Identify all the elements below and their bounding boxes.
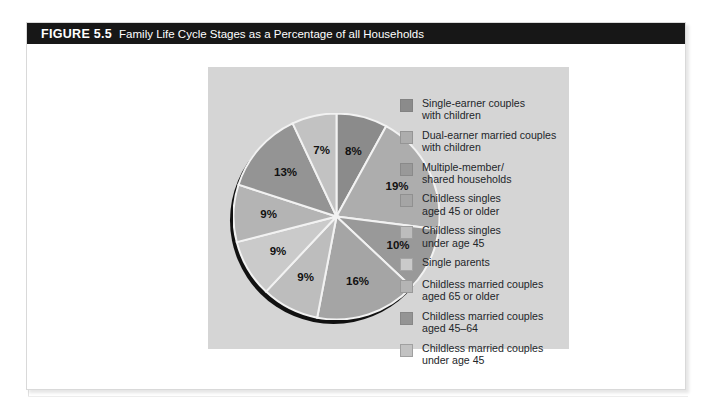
legend-label: Childless singles aged 45 or older (422, 192, 501, 217)
legend-swatch (400, 312, 413, 325)
chart-legend: Single-earner couples with childrenDual-… (400, 97, 576, 374)
legend-label: Multiple-member/ shared households (422, 161, 512, 186)
figure-caption: Family Life Cycle Stages as a Percentage… (119, 28, 424, 40)
legend-swatch (400, 258, 413, 271)
legend-swatch (400, 99, 413, 112)
legend-label: Childless singles under age 45 (422, 224, 501, 249)
legend-item[interactable]: Childless married couples aged 45–64 (400, 310, 576, 335)
chart-panel: 8%19%10%16%9%9%9%13%7% Single-earner cou… (208, 67, 569, 349)
pie-slice-label: 9% (260, 208, 277, 220)
pie-slice-label: 8% (345, 145, 362, 157)
legend-label: Single-earner couples with children (422, 97, 525, 122)
legend-item[interactable]: Dual-earner married couples with childre… (400, 129, 576, 154)
legend-label: Dual-earner married couples with childre… (422, 129, 556, 154)
pie-slice-label: 13% (274, 166, 297, 178)
legend-swatch (400, 131, 413, 144)
legend-label: Childless married couples aged 65 or old… (422, 278, 543, 303)
legend-swatch (400, 226, 413, 239)
figure-title-bar: FIGURE 5.5 Family Life Cycle Stages as a… (27, 23, 685, 44)
legend-label: Childless married couples aged 45–64 (422, 310, 543, 335)
page-rule-bottom (28, 396, 688, 397)
legend-item[interactable]: Single parents (400, 256, 576, 271)
figure-container: FIGURE 5.5 Family Life Cycle Stages as a… (26, 22, 686, 390)
legend-item[interactable]: Single-earner couples with children (400, 97, 576, 122)
legend-label: Childless married couples under age 45 (422, 342, 543, 367)
legend-swatch (400, 194, 413, 207)
legend-swatch (400, 344, 413, 357)
pie-slice-label: 16% (346, 275, 369, 287)
legend-item[interactable]: Childless singles aged 45 or older (400, 192, 576, 217)
legend-label: Single parents (422, 256, 490, 268)
legend-swatch (400, 163, 413, 176)
legend-swatch (400, 280, 413, 293)
legend-item[interactable]: Childless married couples aged 65 or old… (400, 278, 576, 303)
pie-slice-label: 9% (297, 271, 314, 283)
pie-slice-label: 9% (270, 245, 287, 257)
pie-slice-label: 7% (313, 144, 330, 156)
legend-item[interactable]: Childless singles under age 45 (400, 224, 576, 249)
legend-item[interactable]: Childless married couples under age 45 (400, 342, 576, 367)
legend-item[interactable]: Multiple-member/ shared households (400, 161, 576, 186)
figure-number: FIGURE 5.5 (41, 27, 112, 41)
